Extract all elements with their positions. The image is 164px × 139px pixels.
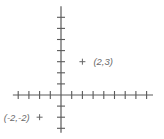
axes — [13, 6, 153, 133]
point: (-2,-2) — [4, 112, 43, 123]
point: (2,3) — [79, 56, 113, 67]
plotted-points: (2,3)(-2,-2) — [4, 56, 113, 123]
coordinate-plane: (2,3)(-2,-2) — [0, 0, 164, 139]
point-label: (2,3) — [93, 56, 113, 67]
axis-ticks — [18, 17, 146, 128]
point-label: (-2,-2) — [4, 112, 30, 123]
